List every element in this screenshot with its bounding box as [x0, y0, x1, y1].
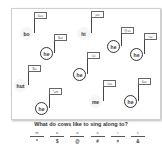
note-flag-label: j=o [91, 11, 104, 18]
blank-line [131, 136, 145, 137]
music-note-bubble: bo [20, 27, 33, 40]
music-note-bubble: he [73, 68, 86, 81]
note-flag-label: @=s [121, 27, 134, 34]
answer-letter: o [76, 130, 78, 135]
blank-line [70, 136, 84, 137]
answer-slot[interactable]: m* [30, 130, 44, 144]
note-flag-label: ×=c [144, 33, 157, 40]
answer-letter: c [137, 130, 139, 135]
answer-row: m* o$ o@ s# i× c& [30, 130, 145, 144]
music-note-bubble: he [35, 102, 48, 115]
note-flag-label: *=m [49, 88, 62, 95]
cipher-symbol: * [36, 139, 38, 144]
cipher-symbol: @ [75, 139, 79, 144]
music-note-bubble: he [107, 40, 120, 53]
answer-letter: o [56, 130, 58, 135]
note-flag-label: &=u [34, 12, 47, 19]
blank-line [111, 136, 125, 137]
answer-slot[interactable]: o@ [70, 130, 84, 144]
note-flag-label: $=o [54, 34, 67, 41]
answer-slot[interactable]: c& [131, 130, 145, 144]
answer-letter: s [97, 130, 99, 135]
note-flag-label: &=c [138, 78, 151, 85]
answer-letter: m [35, 130, 38, 135]
music-note-bubble: me [89, 95, 102, 108]
cipher-symbol: $ [56, 139, 59, 144]
answer-letter: i [117, 130, 118, 135]
question-text: What do cows like to sing along to? [0, 121, 162, 127]
cipher-symbol: × [116, 139, 119, 144]
music-note-bubble: hut [14, 79, 27, 92]
music-note-bubble: he [130, 48, 143, 61]
note-flag-label: $=i [28, 65, 41, 72]
answer-slot[interactable]: i× [111, 130, 125, 144]
blank-line [50, 136, 64, 137]
blank-line [30, 136, 44, 137]
music-note-bubble: he [124, 95, 137, 108]
answer-slot[interactable]: s# [91, 130, 105, 144]
answer-slot[interactable]: o$ [50, 130, 64, 144]
note-flag-label: #=i [87, 52, 100, 59]
music-note-bubble: hi [77, 27, 90, 40]
cipher-symbol: & [136, 139, 139, 144]
cipher-symbol: # [96, 139, 99, 144]
note-flag-label: #=u [103, 80, 116, 87]
music-note-bubble: he [40, 47, 53, 60]
blank-line [91, 136, 105, 137]
